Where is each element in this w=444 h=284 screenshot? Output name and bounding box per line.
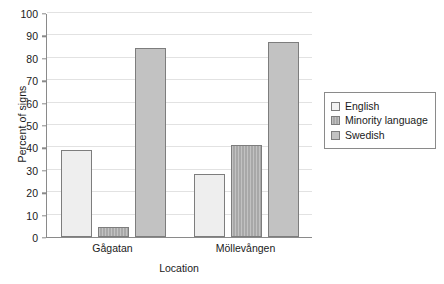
bar-english-1 <box>194 174 225 237</box>
y-tick-mark <box>42 80 46 81</box>
gridline <box>47 12 312 13</box>
bar-swedish-1 <box>268 42 299 237</box>
x-group-label: Gågatan <box>92 242 132 254</box>
y-tick-label: 80 <box>0 53 38 65</box>
bar-english-0 <box>61 150 92 237</box>
y-tick-mark <box>42 148 46 149</box>
y-tick-label: 30 <box>0 165 38 177</box>
legend-label: Minority language <box>345 114 428 127</box>
y-tick-label: 90 <box>0 30 38 42</box>
bar-minority-language-0 <box>98 227 129 237</box>
bar-minority-language-1 <box>231 145 262 237</box>
y-tick-mark <box>42 58 46 59</box>
bars-layer <box>47 14 312 237</box>
y-tick-mark <box>42 103 46 104</box>
y-tick-label: 100 <box>0 8 38 20</box>
legend-swatch-icon <box>331 131 340 140</box>
y-tick-mark <box>42 13 46 14</box>
y-tick-label: 40 <box>0 142 38 154</box>
legend-swatch-icon <box>331 116 340 125</box>
legend-item: Minority language <box>331 114 428 127</box>
legend-label: Swedish <box>345 129 385 142</box>
legend-swatch-icon <box>331 102 340 111</box>
legend-label: English <box>345 100 379 113</box>
plot-area <box>46 14 312 238</box>
bar-chart: Percent of signs 0102030405060708090100 … <box>0 0 444 284</box>
x-group-label: Möllevången <box>216 242 276 254</box>
y-tick-mark <box>42 215 46 216</box>
y-tick-label: 20 <box>0 187 38 199</box>
x-axis-title: Location <box>46 262 312 274</box>
y-tick-label: 50 <box>0 120 38 132</box>
bar-swedish-0 <box>135 48 166 237</box>
y-tick-mark <box>42 237 46 238</box>
legend-item: Swedish <box>331 129 428 142</box>
y-tick-mark <box>42 36 46 37</box>
y-tick-mark <box>42 125 46 126</box>
y-tick-label: 0 <box>0 232 38 244</box>
legend: EnglishMinority languageSwedish <box>324 92 436 149</box>
y-tick-mark <box>42 192 46 193</box>
y-tick-label: 70 <box>0 75 38 87</box>
legend-item: English <box>331 100 428 113</box>
y-tick-label: 60 <box>0 98 38 110</box>
y-tick-label: 10 <box>0 210 38 222</box>
y-tick-mark <box>42 170 46 171</box>
